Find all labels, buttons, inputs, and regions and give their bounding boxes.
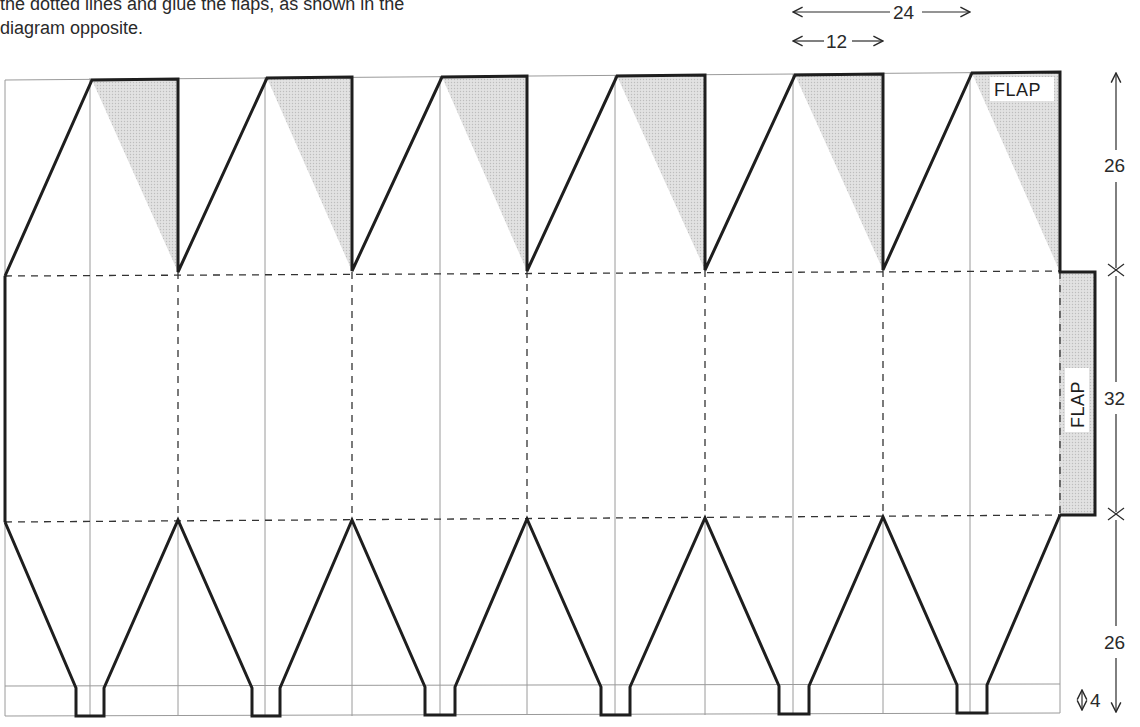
top-glue-flaps <box>92 72 1060 272</box>
top-flap-label: FLAP <box>994 80 1041 100</box>
dimension-32-label: 32 <box>1104 388 1125 409</box>
dimension-12-label: 12 <box>826 31 847 52</box>
dimension-lower-26-label: 26 <box>1104 632 1125 653</box>
side-flap-label: FLAP <box>1068 381 1088 428</box>
dimension-upper-26-label: 26 <box>1104 155 1125 176</box>
paper-net-diagram: FLAP FLAP 24 12 26 32 26 4 <box>0 0 1140 727</box>
fold-lines <box>5 270 1060 522</box>
dimension-24-label: 24 <box>893 2 915 23</box>
dimension-4-label: 4 <box>1090 690 1101 711</box>
